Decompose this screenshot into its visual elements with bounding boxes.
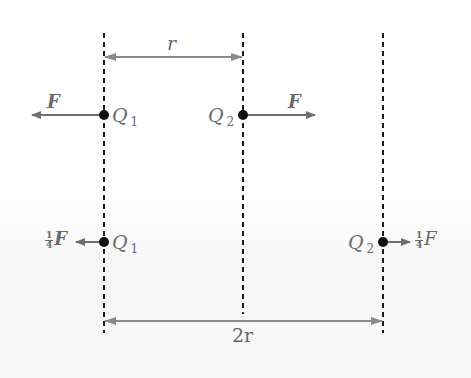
charge-label-q2-row1: Q2 [208,106,234,128]
charge-label-q2-row2: Q2 [348,233,374,255]
charge-q2-row1 [238,110,248,120]
force-label-left-row1: F [47,93,60,111]
distance-2r-label: 2r [232,326,253,345]
charge-q2-row2 [378,237,388,247]
force-label-left-row2: 14F [45,230,67,250]
charge-label-q1-row2: Q1 [112,233,138,255]
charge-q1-row1 [99,110,109,120]
distance-r-label: r [167,34,176,53]
charge-q1-row2 [99,237,109,247]
charge-label-q1-row1: Q1 [112,106,138,128]
coulomb-force-diagram: r 2r F F Q1 Q2 14F Q1 Q2 14F [0,0,471,378]
force-label-right-row2: 14F [415,230,437,250]
diagram-graphics [0,0,471,378]
force-label-right-row1: F [288,93,301,111]
